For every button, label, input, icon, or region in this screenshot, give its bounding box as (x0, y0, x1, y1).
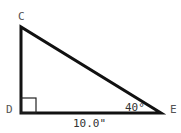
triangle-diagram: C D E 40° 10.0" (0, 0, 181, 133)
vertex-label-e: E (170, 103, 177, 116)
angle-e-label: 40° (125, 101, 145, 114)
vertex-label-c: C (18, 10, 25, 23)
side-de-length: 10.0" (73, 117, 106, 130)
vertex-label-d: D (6, 103, 13, 116)
right-angle-marker (21, 98, 36, 113)
